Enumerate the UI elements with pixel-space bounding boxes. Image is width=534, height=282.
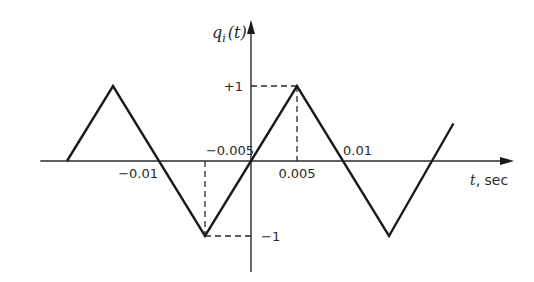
y-axis-label: qi(t) <box>212 23 247 45</box>
x-axis-label: t, sec <box>470 172 508 188</box>
x-tick-label: −0.005 <box>206 143 254 158</box>
y-tick-label: +1 <box>224 79 243 94</box>
x-axis-arrow-icon <box>500 157 514 165</box>
x-tick-label: 0.01 <box>343 143 372 158</box>
y-tick-label: −1 <box>261 229 280 244</box>
triangular-wave-chart: −0.01−0.0050.0050.01+1−1 qi(t) t, sec <box>0 0 534 282</box>
y-axis-arrow-icon <box>247 20 255 34</box>
axis-labels: qi(t) t, sec <box>212 23 508 188</box>
x-tick-label: −0.01 <box>118 166 158 181</box>
x-tick-label: 0.005 <box>278 166 315 181</box>
